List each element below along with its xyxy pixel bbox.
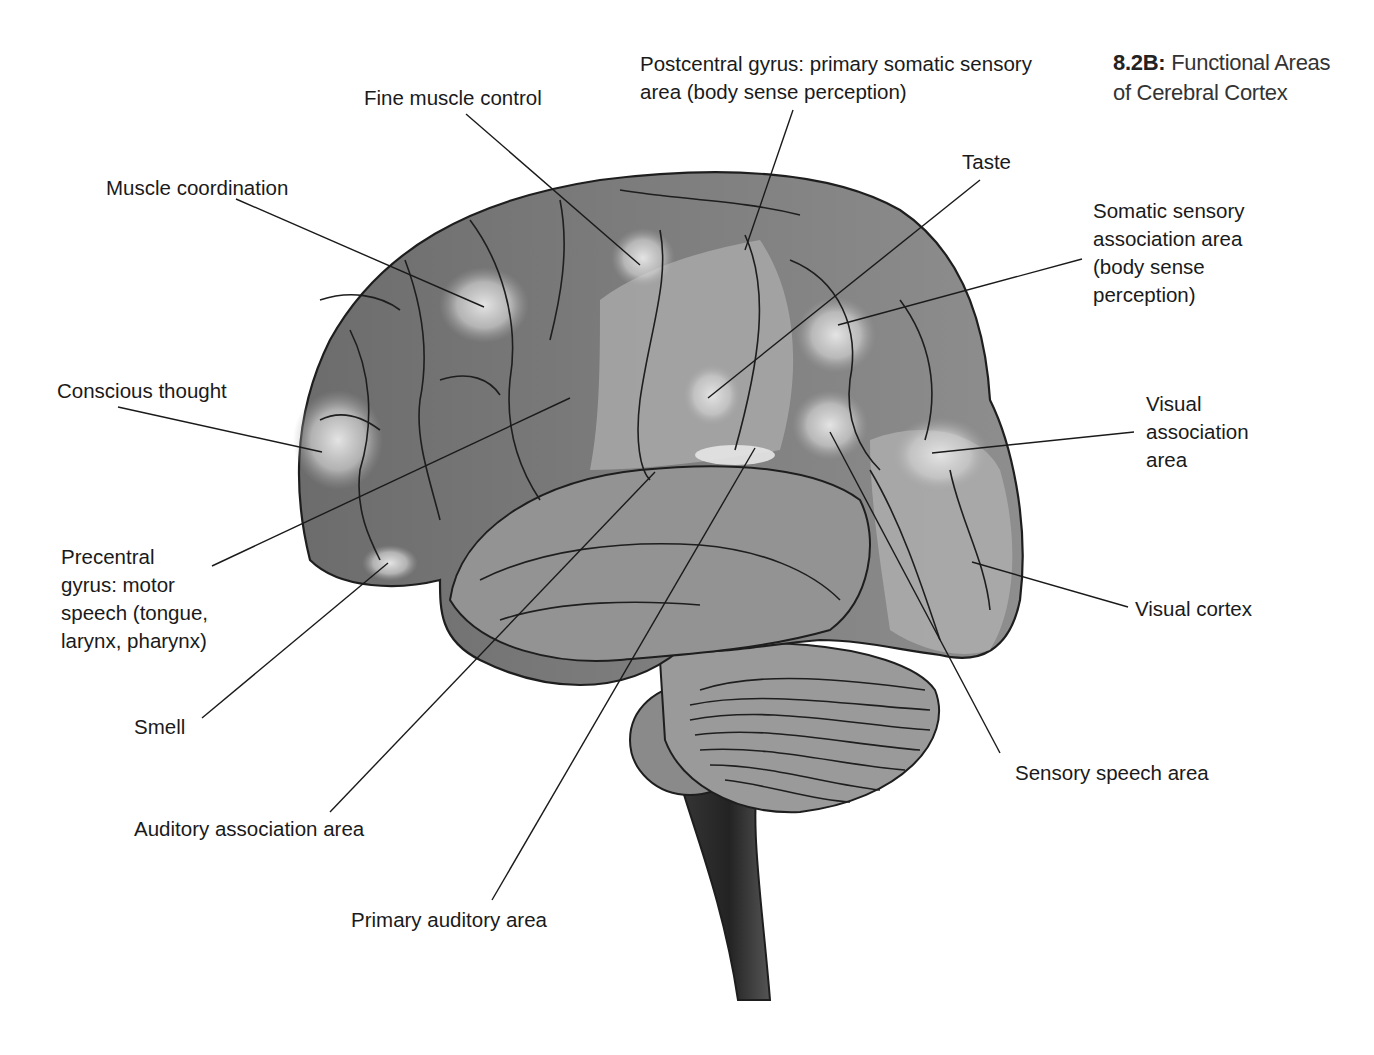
leader-line-conscious-thought bbox=[118, 407, 322, 452]
label-precentral-gyrus: Precentral gyrus: motor speech (tongue, … bbox=[61, 543, 208, 655]
leader-line-precentral-gyrus bbox=[212, 398, 570, 566]
diagram-stage: Postcentral gyrus: primary somatic senso… bbox=[0, 0, 1374, 1055]
label-postcentral-gyrus: Postcentral gyrus: primary somatic senso… bbox=[640, 50, 1032, 106]
figure-title-line2: of Cerebral Cortex bbox=[1113, 80, 1287, 105]
label-visual-association: Visual association area bbox=[1146, 390, 1249, 474]
label-smell: Smell bbox=[134, 713, 185, 741]
leader-line-muscle-coordination bbox=[236, 199, 484, 307]
leader-line-fine-muscle-control bbox=[466, 114, 640, 265]
figure-title-line1: Functional Areas bbox=[1171, 50, 1330, 75]
label-taste: Taste bbox=[962, 148, 1011, 176]
leader-line-sensory-speech bbox=[830, 432, 1000, 753]
label-sensory-speech: Sensory speech area bbox=[1015, 759, 1209, 787]
label-visual-cortex: Visual cortex bbox=[1135, 595, 1252, 623]
leader-line-visual-cortex bbox=[972, 562, 1128, 607]
label-somatic-sensory-association: Somatic sensory association area (body s… bbox=[1093, 197, 1245, 309]
label-fine-muscle-control: Fine muscle control bbox=[364, 84, 542, 112]
leader-lines bbox=[0, 0, 1374, 1055]
label-muscle-coordination: Muscle coordination bbox=[106, 174, 288, 202]
leader-line-auditory-association bbox=[330, 472, 655, 812]
leader-line-smell bbox=[202, 563, 388, 718]
label-conscious-thought: Conscious thought bbox=[57, 377, 227, 405]
figure-title: 8.2B: Functional Areas of Cerebral Corte… bbox=[1113, 48, 1330, 108]
leader-line-primary-auditory bbox=[492, 448, 755, 900]
leader-line-somatic-sensory-association bbox=[838, 259, 1082, 325]
leader-line-postcentral-gyrus bbox=[745, 110, 793, 250]
label-primary-auditory: Primary auditory area bbox=[351, 906, 547, 934]
leader-line-taste bbox=[708, 180, 980, 398]
leader-line-visual-association bbox=[932, 432, 1134, 453]
label-auditory-association: Auditory association area bbox=[134, 815, 364, 843]
figure-number: 8.2B: bbox=[1113, 50, 1165, 75]
